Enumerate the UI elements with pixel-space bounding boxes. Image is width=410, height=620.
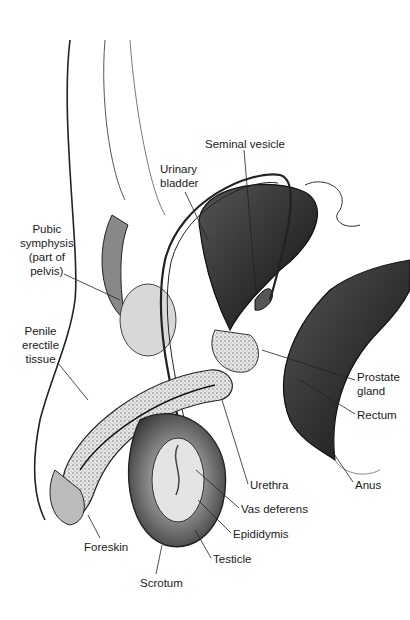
- testicle-shape: [152, 438, 204, 522]
- label-foreskin: Foreskin: [84, 540, 128, 554]
- label-prostate-gland: Prostate gland: [357, 370, 400, 398]
- anatomy-diagram: Seminal vesicle Urinary bladder Pubic sy…: [0, 0, 410, 620]
- rectum-shape: [284, 260, 410, 460]
- prostate-shape: [212, 330, 259, 372]
- label-seminal-vesicle: Seminal vesicle: [205, 137, 285, 151]
- label-pubic-symphysis: Pubic symphysis (part of pelvis): [20, 222, 74, 278]
- label-epididymis: Epididymis: [233, 527, 289, 541]
- label-scrotum: Scrotum: [140, 576, 183, 590]
- label-urinary-bladder: Urinary bladder: [160, 162, 198, 190]
- label-penile-erectile-tissue: Penile erectile tissue: [22, 324, 59, 366]
- label-anus: Anus: [355, 478, 381, 492]
- label-rectum: Rectum: [357, 408, 397, 422]
- label-testicle: Testicle: [213, 552, 251, 566]
- body-outline: [35, 40, 76, 520]
- label-urethra: Urethra: [250, 478, 288, 492]
- illustration: [0, 0, 410, 620]
- label-vas-deferens: Vas deferens: [241, 502, 308, 516]
